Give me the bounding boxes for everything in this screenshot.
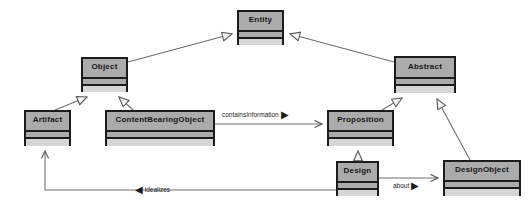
- class-box-proposition[interactable]: Proposition: [327, 110, 394, 146]
- class-operations-artifact: [26, 137, 69, 146]
- edge-designobject-to-abstract: [437, 99, 470, 160]
- triangle-right-icon: ▶: [281, 110, 289, 120]
- edge-label-about: about ▶: [393, 181, 419, 191]
- edge-label-idealizes: ◀ idealizes: [135, 185, 170, 195]
- class-attributes-entity: [239, 30, 282, 37]
- triangle-right-icon: ▶: [411, 181, 419, 191]
- class-operations-object: [83, 84, 126, 92]
- class-box-design[interactable]: Design: [336, 161, 379, 196]
- class-operations-design: [338, 188, 377, 196]
- class-attributes-object: [83, 77, 126, 84]
- class-attributes-artifact: [26, 130, 69, 137]
- class-box-entity[interactable]: Entity: [237, 10, 284, 45]
- class-name-design: Design: [338, 163, 377, 181]
- class-name-artifact: Artifact: [26, 112, 69, 130]
- class-box-abstract[interactable]: Abstract: [394, 56, 456, 93]
- edge-artifact-to-object: [55, 97, 87, 110]
- edge-proposition-to-abstract: [382, 98, 402, 110]
- edge-idealizes: [45, 151, 336, 190]
- class-attributes-abstract: [396, 77, 454, 84]
- class-operations-contentbearingobject: [107, 137, 213, 146]
- class-operations-abstract: [396, 84, 454, 93]
- class-operations-designobject: [445, 187, 519, 196]
- class-name-contentbearingobject: ContentBearingObject: [107, 112, 213, 130]
- class-attributes-designobject: [445, 180, 519, 187]
- edge-contentbearingobject-to-object: [119, 97, 133, 110]
- class-operations-entity: [239, 37, 282, 45]
- edge-label-idealizes-text: idealizes: [145, 186, 170, 193]
- edge-object-to-entity: [128, 34, 232, 62]
- edge-abstract-to-entity: [290, 34, 394, 62]
- class-attributes-design: [338, 181, 377, 188]
- class-box-contentbearingobject[interactable]: ContentBearingObject: [105, 110, 215, 146]
- edge-label-containsinformation: containsInformation ▶: [222, 110, 289, 120]
- class-attributes-proposition: [329, 130, 392, 137]
- class-name-object: Object: [83, 59, 126, 77]
- edge-label-containsinformation-text: containsInformation: [222, 111, 279, 118]
- class-box-artifact[interactable]: Artifact: [24, 110, 71, 146]
- class-operations-proposition: [329, 137, 392, 146]
- class-attributes-contentbearingobject: [107, 130, 213, 137]
- class-name-proposition: Proposition: [329, 112, 392, 130]
- edge-label-about-text: about: [393, 182, 409, 189]
- class-box-designobject[interactable]: DesignObject: [443, 160, 521, 196]
- uml-class-diagram: Entity Object Abstract Artifact ContentB…: [0, 0, 531, 206]
- class-name-entity: Entity: [239, 12, 282, 30]
- class-box-object[interactable]: Object: [81, 57, 128, 92]
- class-name-designobject: DesignObject: [445, 162, 519, 180]
- triangle-left-icon: ◀: [135, 185, 143, 195]
- class-name-abstract: Abstract: [396, 58, 454, 77]
